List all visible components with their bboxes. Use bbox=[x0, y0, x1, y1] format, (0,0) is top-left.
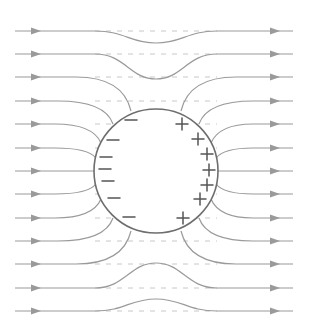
field-line-outgoing bbox=[181, 231, 293, 264]
arrow-right-icon bbox=[270, 285, 280, 292]
field-line-outgoing bbox=[216, 184, 293, 194]
arrow-right-icon bbox=[270, 191, 280, 198]
arrow-right-icon bbox=[31, 168, 41, 175]
field-line-incoming bbox=[15, 124, 101, 143]
arrow-right-icon bbox=[31, 285, 41, 292]
field-line-outgoing bbox=[211, 124, 293, 143]
arrow-right-icon bbox=[270, 51, 280, 58]
arrow-right-icon bbox=[31, 215, 41, 222]
arrow-right-icon bbox=[270, 215, 280, 222]
arrow-right-icon bbox=[31, 51, 41, 58]
arrow-right-icon bbox=[270, 261, 280, 268]
arrow-right-icon bbox=[31, 121, 41, 128]
field-line bbox=[15, 31, 293, 43]
arrow-right-icon bbox=[270, 121, 280, 128]
field-line bbox=[15, 54, 293, 79]
arrow-right-icon bbox=[31, 145, 41, 152]
field-line-outgoing bbox=[216, 148, 293, 158]
field-line-outgoing bbox=[181, 77, 293, 111]
arrow-right-icon bbox=[31, 261, 41, 268]
arrow-right-icon bbox=[31, 191, 41, 198]
arrow-right-icon bbox=[270, 238, 280, 245]
field-line bbox=[15, 263, 293, 288]
field-line-incoming bbox=[15, 231, 131, 264]
field-line-incoming bbox=[15, 184, 96, 194]
field-line-incoming bbox=[15, 148, 96, 158]
arrow-right-icon bbox=[270, 168, 280, 175]
field-line-outgoing bbox=[199, 218, 293, 241]
arrow-right-icon bbox=[270, 98, 280, 105]
arrow-right-icon bbox=[270, 145, 280, 152]
arrow-right-icon bbox=[31, 308, 41, 315]
conducting-sphere bbox=[94, 109, 218, 233]
field-line-incoming bbox=[15, 199, 101, 218]
field-line-outgoing bbox=[199, 101, 293, 124]
arrow-right-icon bbox=[31, 74, 41, 81]
field-line-outgoing bbox=[211, 199, 293, 218]
field-line bbox=[15, 299, 293, 311]
arrow-right-icon bbox=[270, 74, 280, 81]
field-line-incoming bbox=[15, 77, 131, 111]
arrow-right-icon bbox=[31, 28, 41, 35]
field-lines-diagram bbox=[0, 0, 313, 334]
arrow-right-icon bbox=[270, 28, 280, 35]
arrow-right-icon bbox=[270, 308, 280, 315]
field-line-incoming bbox=[15, 218, 113, 241]
arrow-right-icon bbox=[31, 98, 41, 105]
arrow-right-icon bbox=[31, 238, 41, 245]
field-line-incoming bbox=[15, 101, 113, 124]
